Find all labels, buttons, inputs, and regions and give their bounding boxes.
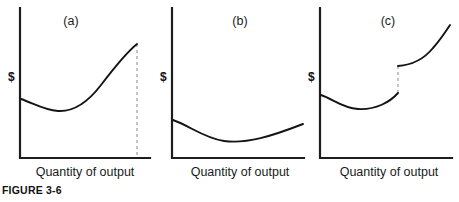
panel-a-x-axis-label: Quantity of output [36,165,135,179]
panel-a-svg: $ (a) Quantity of output [0,0,160,180]
panel-c-axes [320,8,452,158]
panel-b-y-axis-label: $ [160,70,167,84]
panel-c-tag: (c) [381,14,396,28]
panel-b-svg: $ (b) Quantity of output [152,0,312,180]
panel-c-cost-curve-lower [321,93,398,109]
panel-b-axes [172,8,304,158]
chart-panel-a: $ (a) Quantity of output [0,0,160,180]
panel-c-y-axis-label: $ [308,70,315,84]
panel-b-tag: (b) [232,14,247,28]
figure-caption: FIGURE 3-6 [2,184,62,196]
figure-container: $ (a) Quantity of output $ (b) Quantity … [0,0,459,202]
panel-b-x-axis-label: Quantity of output [191,165,290,179]
panel-b-cost-curve [173,120,303,142]
panel-c-svg: $ (c) Quantity of output [300,0,459,180]
panel-a-tag: (a) [63,14,78,28]
panel-a-y-axis-label: $ [8,70,15,84]
chart-panel-b: $ (b) Quantity of output [152,0,312,180]
panel-c-x-axis-label: Quantity of output [340,165,439,179]
panel-c-cost-curve-upper [398,25,450,66]
chart-panel-c: $ (c) Quantity of output [300,0,459,180]
panel-a-cost-curve [21,44,137,111]
panel-a-axes [20,8,150,158]
